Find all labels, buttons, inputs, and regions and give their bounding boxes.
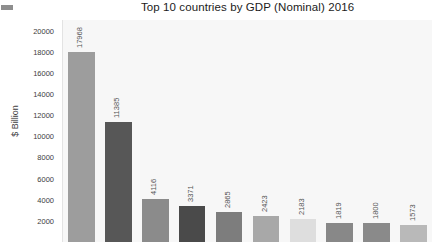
bar-value-label: 3371 <box>186 186 195 203</box>
bar-value-label: 1800 <box>371 202 380 219</box>
bar-group[interactable]: 1819 <box>326 20 353 242</box>
bar-value-label: 2183 <box>297 198 306 215</box>
y-tick-label: 14000 <box>2 90 54 99</box>
bar-value-label: 1573 <box>408 205 417 222</box>
bar[interactable] <box>363 223 390 242</box>
y-tick-label: 4000 <box>2 195 54 204</box>
bar[interactable] <box>326 223 353 242</box>
gdp-bar-chart: Top 10 countries by GDP (Nominal) 2016 $… <box>0 0 445 242</box>
y-tick-label: 20000 <box>2 26 54 35</box>
y-tick-label: 10000 <box>2 132 54 141</box>
bar-group[interactable]: 2183 <box>290 20 317 242</box>
y-tick-label: 16000 <box>2 68 54 77</box>
plot-area: 1796811385411633712865242321831819180015… <box>62 20 432 242</box>
y-tick-label: 8000 <box>2 153 54 162</box>
bar[interactable] <box>179 206 206 242</box>
bar[interactable] <box>290 219 317 242</box>
bar[interactable] <box>105 122 132 242</box>
bar-value-label: 11385 <box>113 97 122 117</box>
bar-value-label: 2865 <box>223 191 232 208</box>
bar-group[interactable]: 1800 <box>363 20 390 242</box>
bar[interactable] <box>253 216 280 242</box>
cropped-toolbar-artifact <box>1 5 13 10</box>
y-tick-label: 18000 <box>2 47 54 56</box>
bar[interactable] <box>68 52 95 242</box>
y-tick-label: 6000 <box>2 174 54 183</box>
bar-value-label: 4116 <box>149 178 158 194</box>
bar[interactable] <box>216 212 243 242</box>
chart-title: Top 10 countries by GDP (Nominal) 2016 <box>60 1 435 13</box>
y-tick-label: 2000 <box>2 216 54 225</box>
bar-group[interactable]: 17968 <box>68 20 95 242</box>
y-tick-label: 12000 <box>2 111 54 120</box>
bar-value-label: 2423 <box>260 196 269 213</box>
bar-group[interactable]: 2865 <box>216 20 243 242</box>
bar-group[interactable]: 1573 <box>400 20 427 242</box>
y-axis: $ Billion 200001800016000140001200010000… <box>0 20 60 242</box>
bar-value-label: 17968 <box>76 27 85 48</box>
bar-group[interactable]: 4116 <box>142 20 169 242</box>
bar[interactable] <box>142 199 169 242</box>
bar-group[interactable]: 2423 <box>253 20 280 242</box>
bar-value-label: 1819 <box>334 202 343 219</box>
bar[interactable] <box>400 225 427 242</box>
bar-group[interactable]: 11385 <box>105 20 132 242</box>
bar-group[interactable]: 3371 <box>179 20 206 242</box>
